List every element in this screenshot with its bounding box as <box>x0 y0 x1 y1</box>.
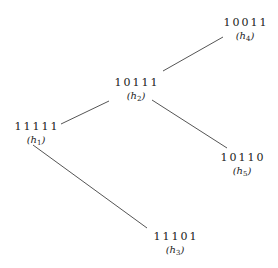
edge-h2-h4 <box>163 37 223 71</box>
node-code: 11111 <box>13 121 60 132</box>
node-h2: 10111 (h2) <box>113 77 160 103</box>
node-code: 10011 <box>222 17 269 28</box>
node-code: 10110 <box>219 152 266 163</box>
node-code: 11101 <box>152 231 199 242</box>
node-h4: 10011 (h4) <box>222 17 269 43</box>
edge-h1-h2 <box>61 101 109 124</box>
edge-h1-h3 <box>33 145 147 228</box>
node-label: (h5) <box>219 166 266 178</box>
node-label: (h4) <box>222 31 269 43</box>
node-h5: 10110 (h5) <box>219 152 266 178</box>
node-label: (h1) <box>13 135 60 147</box>
node-h1: 11111 (h1) <box>13 121 60 147</box>
edge-h2-h5 <box>152 100 227 148</box>
node-code: 10111 <box>113 77 160 88</box>
node-label: (h3) <box>152 245 199 257</box>
node-h3: 11101 (h3) <box>152 231 199 257</box>
node-label: (h2) <box>113 91 160 103</box>
